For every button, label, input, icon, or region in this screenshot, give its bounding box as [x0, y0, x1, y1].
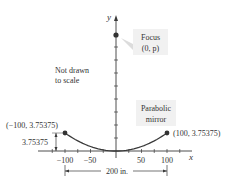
depth-label: 3.75375 — [22, 138, 48, 147]
depth-arrow-up-icon — [55, 133, 58, 137]
note-line-2: to scale — [55, 76, 80, 85]
mirror-label-1: Parabolic — [141, 104, 172, 113]
parabola-diagram: y x −100 −50 50 100 Focus (0, p) Not dra… — [0, 0, 231, 182]
width-arrow-right-icon — [163, 170, 167, 173]
y-axis-arrow-icon — [114, 15, 118, 21]
depth-arrow-down-icon — [55, 147, 58, 151]
x-tick-label: 50 — [137, 156, 145, 165]
width-label: 200 in. — [106, 167, 128, 176]
note-line-1: Not drawn — [55, 66, 89, 75]
mirror-label-2: mirror — [146, 115, 167, 124]
width-arrow-left-icon — [65, 170, 69, 173]
x-tick-label: 100 — [161, 156, 173, 165]
y-axis-label: y — [106, 12, 111, 22]
right-endpoint — [165, 131, 170, 136]
x-axis-label: x — [188, 152, 193, 162]
x-tick-label: −100 — [57, 156, 74, 165]
focus-label: Focus — [141, 33, 160, 42]
right-point-label: (100, 3.75375) — [173, 129, 221, 138]
left-endpoint — [63, 131, 68, 136]
x-tick-label: −50 — [84, 156, 97, 165]
focus-point — [113, 32, 118, 37]
left-point-label: (−100, 3.75375) — [6, 121, 58, 130]
focus-coords-label: (0, p) — [142, 44, 160, 53]
focus-callout-pointer — [121, 38, 133, 50]
